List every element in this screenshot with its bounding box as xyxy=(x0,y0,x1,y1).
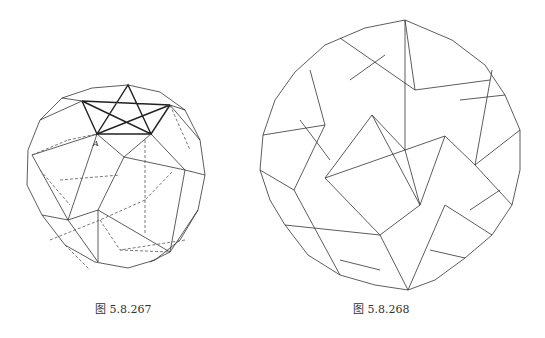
caption-figure-268: 图 5.8.268 xyxy=(353,300,409,316)
polyhedron-figure-268 xyxy=(230,0,530,300)
vertex-label-a: A xyxy=(92,139,99,148)
polyhedron-figure-267: A xyxy=(0,0,250,300)
caption-figure-267: 图 5.8.267 xyxy=(95,300,151,316)
